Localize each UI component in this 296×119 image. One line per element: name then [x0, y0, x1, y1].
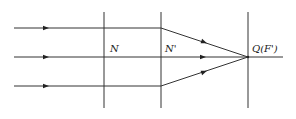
top-ray — [14, 26, 248, 57]
arrow-right-icon — [43, 26, 49, 30]
arrow-right-icon — [201, 71, 207, 76]
arrow-right-icon — [43, 84, 49, 88]
arrow-right-icon — [43, 55, 49, 59]
focal-point-dot — [247, 56, 249, 58]
label-plane-n: N — [109, 43, 120, 54]
bottom-ray — [14, 57, 248, 88]
arrow-right-icon — [201, 39, 207, 44]
label-focal-point: Q(F') — [252, 43, 278, 54]
ray-diagram: N N' Q(F') — [0, 0, 296, 119]
label-plane-n-prime: N' — [164, 43, 177, 54]
arrow-right-icon — [200, 55, 206, 59]
